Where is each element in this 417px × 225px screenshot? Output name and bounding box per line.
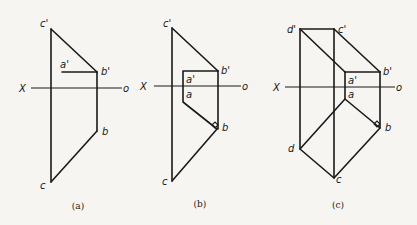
panel-c: d' c' a' a b' X o b d c (c) [272, 24, 402, 210]
axis-label-x: X [139, 81, 148, 92]
orthographic-projection-diagram: c' a' b' X o b c (a) c' a' a b' X o b c … [0, 0, 417, 225]
label-c: c [336, 174, 342, 185]
line-c-prime-b-prime [172, 28, 218, 71]
line-b-c [51, 131, 97, 182]
line-c-prime-b-prime [334, 29, 380, 72]
axis-label-x: X [272, 82, 281, 93]
label-c-prime: c' [338, 24, 346, 35]
label-a: a [186, 89, 192, 100]
label-c-prime: c' [163, 18, 171, 29]
label-d-prime: d' [287, 24, 296, 35]
label-d: d [288, 143, 295, 154]
axis-label-x: X [18, 83, 27, 94]
axis-label-o: o [123, 83, 129, 94]
caption-a: (a) [72, 201, 84, 211]
label-c-prime: c' [40, 18, 48, 29]
axis-label-o: o [242, 81, 248, 92]
label-b-prime: b' [221, 65, 230, 76]
label-a-prime: a' [186, 74, 195, 85]
label-c: c [40, 180, 46, 191]
rectangle-abcd [300, 99, 380, 178]
caption-b: (b) [194, 199, 207, 209]
line-c-prime-b-prime [51, 29, 97, 72]
label-b: b [102, 126, 108, 137]
label-a: a [348, 89, 354, 100]
label-b: b [222, 122, 228, 133]
label-b: b [385, 122, 391, 133]
label-b-prime: b' [383, 66, 392, 77]
axis-label-o: o [396, 82, 402, 93]
label-c: c [162, 176, 168, 187]
label-b-prime: b' [101, 66, 110, 77]
label-a-prime: a' [348, 75, 357, 86]
panel-b: c' a' a b' X o b c (b) [139, 18, 248, 209]
line-d-prime-a-prime [300, 29, 345, 72]
line-b-c [172, 129, 217, 181]
label-a-prime: a' [60, 59, 69, 70]
panel-a: c' a' b' X o b c (a) [18, 18, 129, 211]
caption-c: (c) [332, 200, 344, 210]
